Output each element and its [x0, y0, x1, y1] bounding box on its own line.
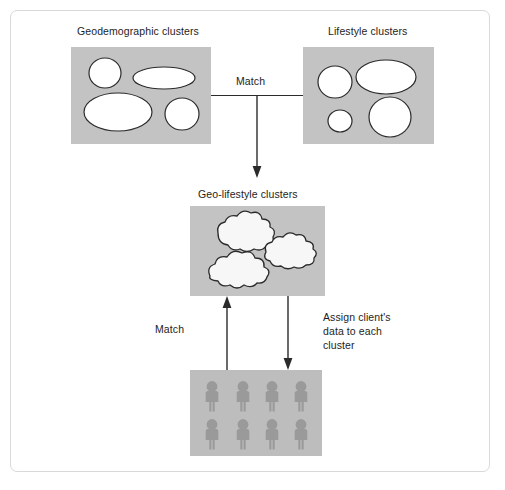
geo-lifestyle-clusters-box — [190, 206, 325, 296]
person-icon — [237, 419, 250, 449]
diagram-canvas: Geodemographic clusters Lifestyle cluste… — [0, 0, 505, 490]
match-up-arrow — [220, 296, 236, 371]
lifestyle-clusters-box — [303, 47, 434, 144]
client-data-people — [190, 370, 322, 456]
person-icon — [206, 419, 219, 449]
cluster-cloud — [209, 251, 269, 288]
person-icon — [266, 419, 279, 449]
lifestyle-clusters-label: Lifestyle clusters — [328, 25, 407, 37]
geodemographic-clusters-box — [71, 47, 211, 144]
match-down-arrow — [250, 95, 266, 180]
person-icon — [206, 381, 219, 411]
assign-client-data-label: Assign client's data to each cluster — [323, 310, 391, 352]
cluster-ellipse — [89, 58, 121, 88]
cluster-ellipse — [328, 110, 352, 132]
lifestyle-shapes — [303, 47, 434, 144]
match-bottom-label: Match — [155, 323, 184, 335]
client-data-box — [190, 370, 322, 456]
assign-down-arrow — [281, 296, 297, 371]
person-icon — [237, 381, 250, 411]
cluster-ellipse — [356, 60, 416, 94]
person-icon — [295, 381, 308, 411]
cluster-ellipse — [84, 93, 152, 131]
cluster-ellipse — [369, 97, 411, 137]
cluster-ellipse — [318, 66, 352, 98]
match-top-label: Match — [236, 75, 265, 87]
geodemographic-clusters-label: Geodemographic clusters — [77, 25, 199, 37]
geo-lifestyle-shapes — [190, 206, 325, 296]
cluster-ellipse — [165, 98, 199, 130]
geodemographic-shapes — [71, 47, 211, 144]
cluster-ellipse — [133, 67, 195, 89]
person-icon — [295, 419, 308, 449]
geo-lifestyle-clusters-label: Geo-lifestyle clusters — [198, 188, 298, 200]
person-icon-grid — [206, 381, 308, 449]
person-icon — [266, 381, 279, 411]
